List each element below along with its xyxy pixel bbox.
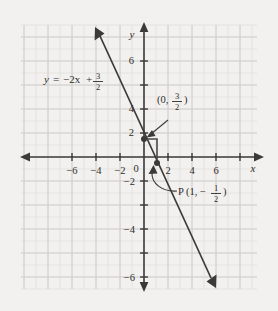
- point-p-dot: [154, 160, 160, 166]
- y-tick-label-6: 6: [129, 55, 134, 66]
- intercept-label-open: (0,: [157, 94, 168, 106]
- equation-equals: =: [53, 73, 59, 85]
- equation-fraction-denominator: 2: [96, 82, 100, 92]
- point-p-open: (1, −: [186, 186, 206, 198]
- equation-fraction-numerator: 3: [96, 71, 100, 81]
- x-tick-label-neg6: −6: [66, 165, 77, 176]
- figure-background: [0, 0, 278, 311]
- y-tick-label-neg6: −6: [124, 272, 135, 283]
- y-tick-label-2: 2: [129, 127, 134, 138]
- equation-plus: +: [86, 73, 92, 85]
- x-tick-label-zero: 0: [133, 163, 138, 174]
- x-tick-label-4: 4: [189, 165, 195, 176]
- equation-lhs: y: [43, 73, 49, 85]
- y-axis-label: y: [129, 28, 135, 40]
- x-tick-label-2: 2: [165, 165, 170, 176]
- point-p-close: ): [223, 186, 227, 198]
- point-p-name: P: [178, 186, 184, 197]
- intercept-fraction-denominator: 2: [175, 102, 179, 112]
- point-p-fraction-denominator: 2: [214, 194, 218, 204]
- y-tick-label-neg2: −2: [124, 176, 135, 187]
- point-p-fraction-numerator: 1: [214, 183, 218, 193]
- svg-text:y: y: [43, 73, 49, 85]
- figure-container: x y −6 −4 −2 0 2 4 6 6 4 2 −2 −4 −6: [0, 0, 278, 311]
- equation-slope-term: −2x: [63, 73, 81, 85]
- x-axis-label: x: [250, 162, 256, 174]
- x-tick-label-neg4: −4: [90, 165, 102, 176]
- x-tick-label-neg2: −2: [114, 165, 125, 176]
- intercept-label-close: ): [184, 94, 188, 106]
- y-tick-label-neg4: −4: [124, 224, 136, 235]
- svg-text:−2x: −2x: [63, 73, 81, 85]
- x-tick-label-6: 6: [213, 165, 218, 176]
- intercept-fraction-numerator: 3: [175, 91, 179, 101]
- coordinate-plane-figure: x y −6 −4 −2 0 2 4 6 6 4 2 −2 −4 −6: [0, 0, 278, 311]
- y-intercept-point-dot: [141, 136, 147, 142]
